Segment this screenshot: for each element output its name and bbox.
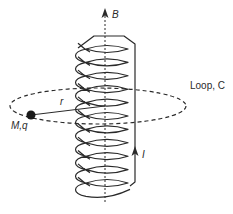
particle-label: M,q xyxy=(11,121,28,131)
charged-particle xyxy=(27,111,36,120)
loop-label: Loop, C xyxy=(190,81,225,91)
solenoid-diagram: B I Loop, C r M,q xyxy=(0,0,233,214)
radius-label: r xyxy=(60,97,63,107)
b-field-label: B xyxy=(112,10,119,20)
current-label: I xyxy=(142,150,145,160)
diagram-graphics xyxy=(0,0,233,214)
coil-turns xyxy=(76,43,131,197)
solenoid-coil xyxy=(76,43,131,197)
